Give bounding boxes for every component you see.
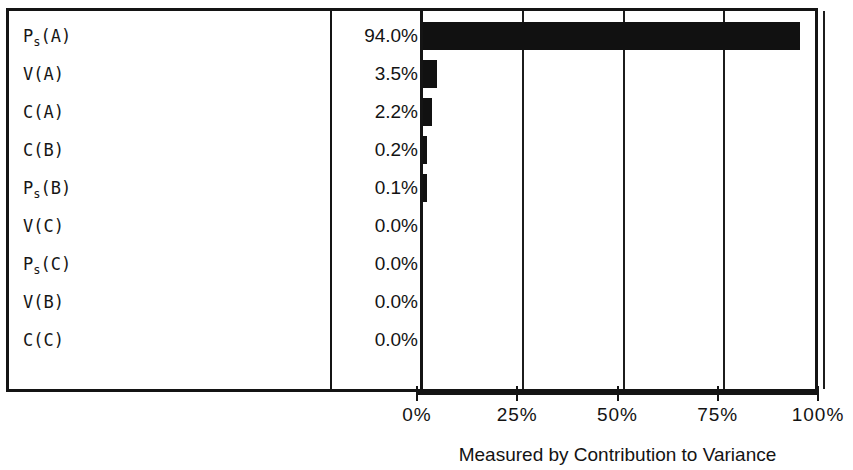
category-label: V(B) <box>23 283 64 321</box>
x-axis-tick-label: 0% <box>372 404 462 426</box>
category-label: V(C) <box>23 207 64 245</box>
chart-panel: Ps(A)94.0%V(A)3.5%C(A)2.2%C(B)0.2%Ps(B)0… <box>6 8 818 392</box>
value-label: 0.0% <box>338 245 418 283</box>
x-axis-tick-label: 100% <box>773 404 853 426</box>
category-label: C(B) <box>23 131 64 169</box>
x-axis-tick <box>516 386 518 401</box>
x-axis-tick <box>717 386 719 401</box>
category-label: Ps(C) <box>23 245 71 283</box>
chart-row: Ps(A)94.0% <box>9 17 815 55</box>
chart-row: C(A)2.2% <box>9 93 815 131</box>
chart-row: Ps(B)0.1% <box>9 169 815 207</box>
x-axis-tick <box>416 386 418 401</box>
chart-row: V(B)0.0% <box>9 283 815 321</box>
value-label: 94.0% <box>338 17 418 55</box>
category-label: C(A) <box>23 93 64 131</box>
bar-chart-figure: Ps(A)94.0%V(A)3.5%C(A)2.2%C(B)0.2%Ps(B)0… <box>0 0 853 470</box>
value-label: 2.2% <box>338 93 418 131</box>
chart-row: V(A)3.5% <box>9 55 815 93</box>
chart-row: C(C)0.0% <box>9 321 815 359</box>
category-label: Ps(B) <box>23 169 71 207</box>
chart-row: Ps(C)0.0% <box>9 245 815 283</box>
gridline <box>823 11 825 389</box>
value-label: 0.0% <box>338 207 418 245</box>
value-label: 0.1% <box>338 169 418 207</box>
value-label: 0.0% <box>338 321 418 359</box>
x-axis-tick <box>617 386 619 401</box>
x-axis-caption: Measured by Contribution to Variance <box>417 444 818 466</box>
x-axis-tick <box>817 386 819 401</box>
category-label: V(A) <box>23 55 64 93</box>
chart-rows: Ps(A)94.0%V(A)3.5%C(A)2.2%C(B)0.2%Ps(B)0… <box>9 11 815 389</box>
x-axis-tick-label: 25% <box>472 404 562 426</box>
value-label: 0.0% <box>338 283 418 321</box>
value-label: 3.5% <box>338 55 418 93</box>
chart-row: V(C)0.0% <box>9 207 815 245</box>
value-label: 0.2% <box>338 131 418 169</box>
category-label: C(C) <box>23 321 64 359</box>
x-axis-tick-label: 75% <box>673 404 763 426</box>
x-axis: 0%25%50%75%100% <box>417 392 818 393</box>
chart-row: C(B)0.2% <box>9 131 815 169</box>
x-axis-tick-label: 50% <box>573 404 663 426</box>
category-label: Ps(A) <box>23 17 71 55</box>
